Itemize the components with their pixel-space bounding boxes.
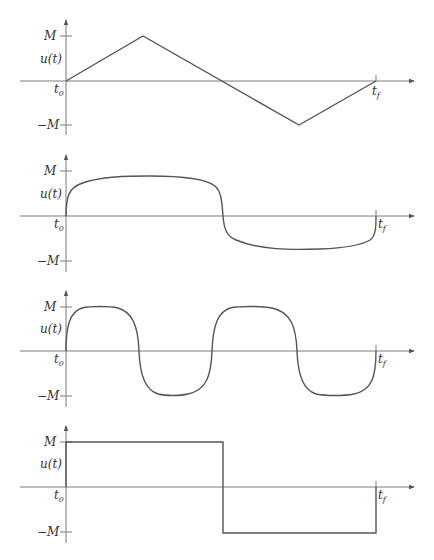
label-u: u(t)	[40, 52, 62, 66]
label-negM: −M	[37, 254, 60, 268]
label-u: u(t)	[40, 187, 62, 201]
panel-3-smooth-oscillation: M u(t) t0 −M tf	[20, 291, 414, 407]
label-t0: t0	[54, 488, 64, 504]
label-M: M	[43, 29, 57, 43]
label-M: M	[43, 164, 57, 178]
label-t0: t0	[54, 352, 64, 368]
label-negM: −M	[37, 389, 60, 403]
label-t0: t0	[54, 217, 64, 233]
label-M: M	[43, 435, 57, 449]
label-M: M	[43, 300, 57, 314]
label-t0: t0	[54, 82, 64, 98]
figure: M u(t) t0 −M tf M u(t) t0 −M tf M u(t) t…	[0, 0, 434, 560]
label-u: u(t)	[40, 457, 62, 471]
panel-1-triangle: M u(t) t0 −M tf	[20, 20, 414, 135]
curve-smooth-switch	[66, 176, 376, 249]
label-tf: tf	[378, 488, 388, 504]
panel-4-bang-bang: M u(t) t0 −M tf	[20, 426, 414, 543]
label-negM: −M	[37, 118, 60, 132]
label-tf: tf	[372, 84, 382, 100]
label-tf: tf	[378, 217, 388, 233]
label-tf: tf	[378, 352, 388, 368]
label-negM: −M	[37, 525, 60, 539]
panel-2-smooth-switch: M u(t) t0 −M tf	[20, 155, 414, 272]
label-u: u(t)	[40, 322, 62, 336]
